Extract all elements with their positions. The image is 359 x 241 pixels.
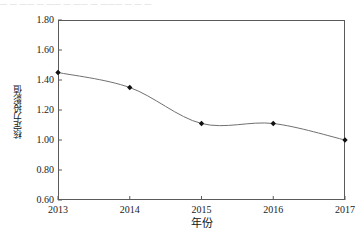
data-point-marker xyxy=(127,85,132,90)
x-axis-tick-labels: 20132014201520162017 xyxy=(0,204,359,218)
series-line-path xyxy=(58,73,345,141)
y-tick-label: 1.20 xyxy=(24,105,54,115)
x-axis-tick-marks xyxy=(58,196,345,200)
y-tick-label: 1.00 xyxy=(24,135,54,145)
x-axis-title: 年份 xyxy=(58,218,345,230)
x-tick-label: 2015 xyxy=(179,204,225,215)
y-axis-title: 核定力投影值 xyxy=(12,52,28,172)
x-tick-label: 2013 xyxy=(35,204,81,215)
y-tick-label: 1.60 xyxy=(24,45,54,55)
x-tick-label: 2017 xyxy=(322,204,359,215)
data-point-marker xyxy=(199,121,204,126)
x-tick-label: 2016 xyxy=(250,204,296,215)
data-point-marker xyxy=(271,121,276,126)
data-point-marker xyxy=(342,137,347,142)
data-point-marker xyxy=(55,70,60,75)
y-axis-tick-marks xyxy=(58,20,62,200)
x-tick-label: 2014 xyxy=(107,204,153,215)
y-tick-label: 1.80 xyxy=(24,15,54,25)
y-tick-label: 1.40 xyxy=(24,75,54,85)
series-data-markers xyxy=(55,70,347,143)
y-tick-label: 0.80 xyxy=(24,165,54,175)
line-chart-figure: 0.600.801.001.201.401.601.80 20132014201… xyxy=(0,0,359,241)
